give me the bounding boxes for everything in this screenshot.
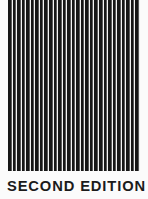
- stripe-bar: [117, 0, 120, 171]
- stripe-bar: [54, 0, 57, 171]
- stripe-bar: [131, 0, 134, 171]
- stripe-bar: [90, 0, 93, 171]
- edition-line: SECOND EDITION: [7, 177, 141, 194]
- stripe-bar: [76, 0, 79, 171]
- stripe-bar: [122, 0, 125, 171]
- stripe-bar: [17, 0, 20, 171]
- stripe-bar: [40, 0, 43, 171]
- stripe-bar: [44, 0, 47, 171]
- stripe-bar: [58, 0, 61, 171]
- stripe-bar: [94, 0, 97, 171]
- stripe-bar: [113, 0, 116, 171]
- edition-label: SECOND EDITION: [7, 177, 146, 194]
- stripe-bar: [63, 0, 66, 171]
- stripe-bar: [31, 0, 34, 171]
- stripe-bar: [35, 0, 38, 171]
- stripe-bar: [8, 0, 11, 171]
- stripe-bar: [49, 0, 52, 171]
- stripe-bar: [126, 0, 129, 171]
- stripe-bar: [26, 0, 29, 171]
- vertical-stripe-pattern: [8, 0, 140, 171]
- stripe-bar: [99, 0, 102, 171]
- stripe-bar: [81, 0, 84, 171]
- stripe-bar: [108, 0, 111, 171]
- stripe-bar: [104, 0, 107, 171]
- stripe-bar: [85, 0, 88, 171]
- book-cover: SECOND EDITION: [0, 0, 148, 199]
- stripe-bar: [22, 0, 25, 171]
- stripe-bar: [72, 0, 75, 171]
- stripe-bar: [135, 0, 138, 171]
- stripe-bar: [67, 0, 70, 171]
- stripe-bar: [13, 0, 16, 171]
